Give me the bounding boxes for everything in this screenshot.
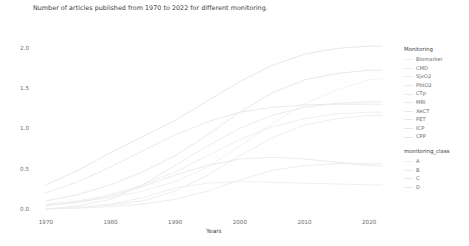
series-line — [46, 70, 382, 201]
legend-item-label: CMD — [416, 64, 428, 73]
legend-item-label: PET — [416, 115, 426, 124]
legend-item-label: B — [416, 166, 420, 175]
series-line — [46, 182, 382, 209]
legend-item[interactable]: CPP — [404, 132, 443, 141]
legend-item[interactable]: XeCT — [404, 107, 443, 116]
legend-monitoring-class: monitoring_class ABCD — [404, 148, 450, 191]
legend-monitoring-class-items: ABCD — [404, 157, 450, 191]
legend-swatch-icon — [404, 132, 413, 141]
x-tick-label: 2020 — [354, 219, 384, 225]
legend-swatch-icon — [404, 72, 413, 81]
legend-item-label: Biomarker — [416, 55, 443, 64]
legend-item[interactable]: C — [404, 174, 450, 183]
legend-item[interactable]: MRI — [404, 98, 443, 107]
legend-item[interactable]: PbtO2 — [404, 81, 443, 90]
legend-swatch-icon — [404, 124, 413, 133]
y-tick-label: 1.5 — [5, 85, 29, 91]
legend-item-label: C — [416, 174, 420, 183]
legend-swatch-icon — [404, 174, 413, 183]
x-tick-label: 1980 — [96, 219, 126, 225]
plot-area — [33, 38, 395, 213]
series-line — [46, 157, 382, 205]
legend-item[interactable]: ICP — [404, 124, 443, 133]
legend-item-label: CPP — [416, 132, 426, 141]
legend-swatch-icon — [404, 81, 413, 90]
legend-monitoring-title: Monitoring — [404, 46, 443, 52]
legend-item-label: MRI — [416, 98, 426, 107]
legend-swatch-icon — [404, 89, 413, 98]
legend-item[interactable]: SjvO2 — [404, 72, 443, 81]
x-tick-label: 2000 — [225, 219, 255, 225]
legend-swatch-icon — [404, 166, 413, 175]
legend-swatch-icon — [404, 183, 413, 192]
y-tick-label: 1.0 — [5, 125, 29, 131]
legend-item[interactable]: B — [404, 166, 450, 175]
y-tick-label: 0.5 — [5, 166, 29, 172]
x-tick-label: 2010 — [290, 219, 320, 225]
y-tick-label: 2.0 — [5, 45, 29, 51]
x-axis-title: Years — [0, 228, 428, 234]
legend-item-label: XeCT — [416, 107, 429, 116]
legend-swatch-icon — [404, 98, 413, 107]
legend-item-label: A — [416, 157, 420, 166]
x-tick-label: 1990 — [160, 219, 190, 225]
series-line — [46, 115, 382, 209]
y-tick-label: 0.0 — [5, 206, 29, 212]
series-line — [46, 102, 382, 209]
series-lines — [33, 38, 395, 213]
legend-item[interactable]: D — [404, 183, 450, 192]
series-line — [46, 104, 382, 193]
legend-item-label: D — [416, 183, 420, 192]
x-tick-label: 1970 — [31, 219, 61, 225]
legend-swatch-icon — [404, 55, 413, 64]
legend-monitoring-class-title: monitoring_class — [404, 148, 450, 154]
legend-item[interactable]: CMD — [404, 64, 443, 73]
series-line — [46, 112, 382, 204]
legend-item-label: ICP — [416, 124, 424, 133]
legend-item-label: PbtO2 — [416, 81, 432, 90]
legend-swatch-icon — [404, 157, 413, 166]
legend-item-label: SjvO2 — [416, 72, 431, 81]
legend-swatch-icon — [404, 64, 413, 73]
legend-item[interactable]: PET — [404, 115, 443, 124]
chart-title: Number of articles published from 1970 t… — [33, 4, 268, 12]
chart-figure: Number of articles published from 1970 t… — [0, 0, 469, 246]
legend-monitoring: Monitoring BiomarkerCMDSjvO2PbtO2CTpMRIX… — [404, 46, 443, 141]
legend-item-label: CTp — [416, 89, 426, 98]
legend-item[interactable]: CTp — [404, 89, 443, 98]
legend-swatch-icon — [404, 115, 413, 124]
legend-monitoring-items: BiomarkerCMDSjvO2PbtO2CTpMRIXeCTPETICPCP… — [404, 55, 443, 141]
legend-item[interactable]: A — [404, 157, 450, 166]
legend-swatch-icon — [404, 107, 413, 116]
legend-item[interactable]: Biomarker — [404, 55, 443, 64]
